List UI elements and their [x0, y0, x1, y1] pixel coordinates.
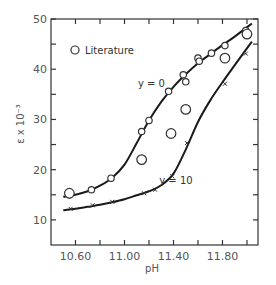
data-point-circle — [183, 79, 189, 85]
data-point-circle — [222, 42, 228, 48]
data-point-x — [244, 52, 248, 56]
data-point-circle — [108, 175, 114, 181]
data-point-literature — [181, 105, 191, 115]
x-tick-label: 10.60 — [60, 250, 92, 263]
data-point-literature — [65, 188, 75, 198]
legend: Literature — [71, 45, 134, 56]
data-point-circle — [146, 117, 152, 123]
plot-frame — [51, 19, 258, 245]
ticks: 10.6011.0011.4011.801020304050 — [33, 13, 258, 263]
data-point-literature — [220, 53, 230, 63]
y-tick-label: 40 — [33, 63, 47, 76]
y-tick-label: 50 — [33, 13, 47, 26]
data-point-circle — [196, 58, 202, 64]
data-point-circle — [208, 50, 214, 56]
curve-label: y = 0 — [138, 78, 165, 89]
x-tick-label: 11.00 — [109, 250, 141, 263]
y-tick-label: 30 — [33, 113, 47, 126]
curve-label: y = 10 — [159, 175, 192, 186]
y-tick-label: 20 — [33, 164, 47, 177]
y-tick-label: 10 — [33, 214, 47, 227]
data-point-literature — [242, 29, 252, 39]
y-axis-label: ε x 10⁻³ — [15, 104, 26, 144]
curve-y-10 — [63, 42, 252, 211]
x-tick-label: 11.80 — [207, 250, 239, 263]
x-axis-label: pH — [145, 263, 159, 274]
data-point-circle — [88, 187, 94, 193]
data-point-literature — [137, 155, 147, 165]
curve-labels: y = 0y = 10 — [138, 78, 193, 186]
x-tick-label: 11.40 — [158, 250, 190, 263]
data-point-circle — [138, 128, 144, 134]
axes — [51, 19, 258, 245]
data-point-circle — [165, 88, 171, 94]
legend-circle-marker — [71, 46, 79, 54]
data-point-literature — [166, 129, 176, 139]
legend-label: Literature — [85, 45, 134, 56]
data-point-x — [223, 82, 227, 86]
chart: 10.6011.0011.4011.801020304050 pH ε x 10… — [0, 0, 276, 285]
data-point-circle — [180, 72, 186, 78]
